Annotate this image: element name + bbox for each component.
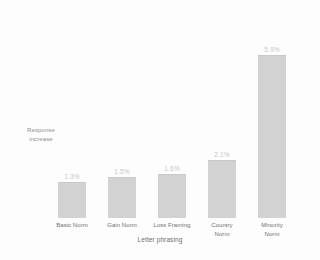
bar-group: 1.3% <box>47 30 97 218</box>
bar <box>258 55 286 218</box>
bar-value-label: 1.6% <box>147 165 197 172</box>
bar <box>108 177 136 218</box>
x-axis-tick-label-line: Basic Norm <box>47 221 97 230</box>
bar <box>58 182 86 218</box>
x-axis-tick-label-line: Country <box>197 221 247 230</box>
bar-value-label: 5.9% <box>247 46 297 53</box>
bar <box>158 174 186 218</box>
plot-area: 1.3%1.5%1.6%2.1%5.9% <box>47 30 297 218</box>
bar-group: 2.1% <box>197 30 247 218</box>
bar <box>208 160 236 218</box>
x-axis-tick-label-line: Minority <box>247 221 297 230</box>
x-axis-tick-label-line: Gain Norm <box>97 221 147 230</box>
bar-group: 1.6% <box>147 30 197 218</box>
bar-value-label: 1.3% <box>47 173 97 180</box>
bar-series: 1.3%1.5%1.6%2.1%5.9% <box>47 30 297 218</box>
bar-group: 1.5% <box>97 30 147 218</box>
bar-chart: Response increase 1.3%1.5%1.6%2.1%5.9% B… <box>0 0 320 260</box>
bar-value-label: 1.5% <box>97 168 147 175</box>
bar-group: 5.9% <box>247 30 297 218</box>
x-axis-tick-label-line: Loss Framing <box>147 221 197 230</box>
bar-value-label: 2.1% <box>197 151 247 158</box>
x-axis-label: Letter phrasing <box>0 236 320 243</box>
